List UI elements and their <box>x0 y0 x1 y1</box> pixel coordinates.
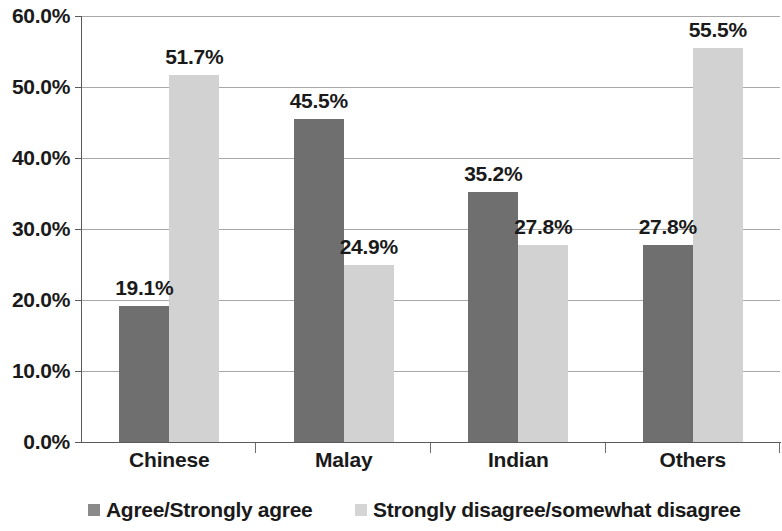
x-axis-category-label: Indian <box>488 448 549 472</box>
plot-area: 19.1%51.7%45.5%24.9%35.2%27.8%27.8%55.5% <box>82 16 780 442</box>
legend-item-agree[interactable]: Agree/Strongly agree <box>88 498 312 522</box>
y-axis-tick <box>75 300 82 301</box>
y-axis-tick-label: 60.0% <box>12 4 70 28</box>
y-axis-tick-labels: 60.0% 50.0% 40.0% 30.0% 20.0% 10.0% 0.0% <box>0 0 76 460</box>
legend-item-disagree[interactable]: Strongly disagree/somewhat disagree <box>355 498 741 522</box>
y-axis-tick-label: 10.0% <box>12 359 70 383</box>
bar-chinese-series0 <box>119 306 169 442</box>
y-axis-tick-label: 30.0% <box>12 217 70 241</box>
bar-chinese-series1 <box>169 75 219 442</box>
bar-value-label: 35.2% <box>464 162 522 186</box>
chart-legend: Agree/Strongly agree Strongly disagree/s… <box>0 498 782 531</box>
bar-value-label: 55.5% <box>689 18 747 42</box>
y-axis-tick <box>75 16 82 17</box>
bar-value-label: 51.7% <box>165 45 223 69</box>
y-axis-tick-label: 20.0% <box>12 288 70 312</box>
legend-item-label: Agree/Strongly agree <box>106 498 312 522</box>
bar-others-series0 <box>643 245 693 442</box>
y-axis-tick-label: 50.0% <box>12 75 70 99</box>
bar-value-label: 24.9% <box>340 235 398 259</box>
y-axis-tick <box>75 158 82 159</box>
x-axis-category-label: Others <box>660 448 727 472</box>
x-axis-category-label: Chinese <box>129 448 209 472</box>
y-axis-tick-label: 0.0% <box>23 430 70 454</box>
x-axis-line <box>81 442 781 443</box>
bar-malay-series1 <box>344 265 394 442</box>
y-axis-tick <box>75 371 82 372</box>
x-axis-category-label: Malay <box>315 448 372 472</box>
legend-item-label: Strongly disagree/somewhat disagree <box>373 498 741 522</box>
legend-swatch-icon <box>88 504 100 516</box>
legend-swatch-icon <box>355 504 367 516</box>
bar-indian-series1 <box>518 245 568 442</box>
gridline <box>82 16 780 17</box>
y-axis-tick <box>75 229 82 230</box>
bar-chart: 60.0% 50.0% 40.0% 30.0% 20.0% 10.0% 0.0%… <box>0 0 782 531</box>
bar-value-label: 45.5% <box>290 89 348 113</box>
bar-indian-series0 <box>468 192 518 442</box>
bar-others-series1 <box>693 48 743 442</box>
bar-value-label: 19.1% <box>115 276 173 300</box>
y-axis-tick <box>75 442 82 443</box>
x-axis-category-labels: ChineseMalayIndianOthers <box>82 448 780 484</box>
y-axis-tick <box>75 87 82 88</box>
bar-malay-series0 <box>294 119 344 442</box>
bar-value-label: 27.8% <box>639 215 697 239</box>
bar-value-label: 27.8% <box>514 215 572 239</box>
y-axis-tick-label: 40.0% <box>12 146 70 170</box>
